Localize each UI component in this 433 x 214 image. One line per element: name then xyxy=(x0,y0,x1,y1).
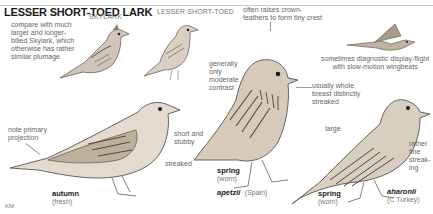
label-autumn-fresh: autumn (fresh) xyxy=(52,190,79,206)
plumage-state: (worn) xyxy=(318,198,341,206)
field-guide-plate: LESSER SHORT-TOED LARK SKYLARK LESSER SH… xyxy=(0,0,433,214)
plumage-state: (fresh) xyxy=(52,198,79,206)
note-crest: often raises crown- feathers to form tin… xyxy=(243,6,322,22)
note-compare-skylark: compare with much larger and longer- bil… xyxy=(11,21,74,61)
artist-signature: KM xyxy=(5,203,14,209)
subspecies-region: (Spain) xyxy=(245,189,268,196)
label-aharonii: aharonii (C Turkey) xyxy=(387,188,420,204)
page-title: LESSER SHORT-TOED LARK xyxy=(4,6,152,18)
note-primary-projection: note primary projection xyxy=(8,126,47,142)
note-fine-streaking: rather fine streak- ing xyxy=(409,140,430,172)
autumn-fresh-illustration xyxy=(8,98,188,208)
note-large: large xyxy=(325,125,341,133)
note-moderate-contrast: generally only moderate contrast xyxy=(209,60,239,92)
caption-lesser-short-toed: LESSER SHORT-TOED xyxy=(157,8,234,15)
note-streaked: streaked xyxy=(165,160,192,168)
subspecies-name: aharonii xyxy=(387,188,420,196)
season-label: autumn xyxy=(52,190,79,198)
season-label: spring xyxy=(318,190,341,198)
season-label: spring xyxy=(217,167,267,175)
label-spring-apetzii: spring (worn) apetzii (Spain) xyxy=(217,167,267,197)
label-spring-worn: spring (worn) xyxy=(318,190,341,206)
note-display-flight: sometimes diagnostic display-flight with… xyxy=(321,55,429,71)
note-short-stubby-bill: short and stubby xyxy=(174,130,203,146)
flying-lark-illustration xyxy=(345,20,420,55)
subspecies-region: (C Turkey) xyxy=(387,196,420,204)
subspecies-name: apetzii xyxy=(217,188,240,197)
